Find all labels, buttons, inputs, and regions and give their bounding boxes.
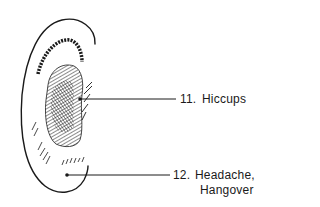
ear-tragus bbox=[82, 82, 92, 120]
point-11-label: 11.Hiccups bbox=[180, 93, 246, 106]
point-11-number: 11. bbox=[180, 93, 202, 106]
point-12-number: 12. bbox=[173, 169, 195, 182]
point-12-text: Headache, bbox=[195, 168, 255, 182]
point-12-label: 12.Headache, bbox=[173, 169, 255, 182]
point-12-label-line2: Hangover bbox=[200, 184, 254, 197]
ear-lobe-texture bbox=[62, 157, 84, 165]
point-11-text: Hiccups bbox=[202, 92, 246, 106]
